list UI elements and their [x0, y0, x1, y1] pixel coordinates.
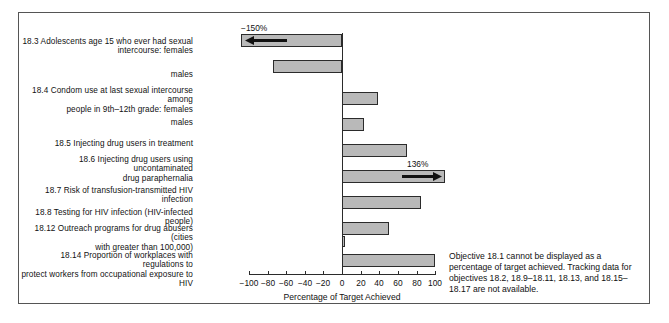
- x-tick-label: −80: [261, 278, 275, 288]
- x-tick: [379, 271, 380, 275]
- x-tick-label: 0: [340, 278, 345, 288]
- bar-18-14: [342, 254, 435, 267]
- category-label: 18.4 Condom use at last sexual intercour…: [19, 86, 193, 114]
- category-label: 18.12 Outreach programs for drug abusers…: [19, 224, 193, 252]
- category-label: males: [171, 118, 193, 127]
- bar-18-4-females: [342, 92, 378, 105]
- x-tick-label: −20: [316, 278, 330, 288]
- x-tick-label: −100: [240, 278, 259, 288]
- x-tick: [249, 271, 250, 275]
- x-tick: [342, 271, 343, 275]
- x-tick: [417, 271, 418, 275]
- value-flag-18-3-females: −150%: [241, 23, 267, 33]
- zero-line: [342, 33, 343, 274]
- x-tick-label: 40: [374, 278, 383, 288]
- x-tick: [361, 271, 362, 275]
- category-label: 18.6 Injecting drug users using uncontam…: [19, 155, 193, 183]
- bar-18-5: [342, 144, 407, 157]
- x-tick-label: 80: [412, 278, 421, 288]
- figure-note: Objective 18.1 cannot be displayed as a …: [449, 251, 635, 295]
- x-tick-label: 100: [428, 278, 442, 288]
- x-tick: [305, 271, 306, 275]
- category-label: 18.5 Injecting drug users in treatment: [55, 139, 193, 148]
- overflow-arrow-right-icon: [402, 172, 442, 181]
- category-label: males: [171, 70, 193, 79]
- bar-18-8: [342, 222, 389, 235]
- figure-panel: 18.3 Adolescents age 15 who ever had sex…: [18, 12, 650, 304]
- x-tick: [435, 271, 436, 275]
- bar-18-4-males: [342, 118, 364, 131]
- x-tick: [398, 271, 399, 275]
- x-tick-label: 20: [356, 278, 365, 288]
- bar-18-7: [342, 196, 421, 209]
- x-tick: [286, 271, 287, 275]
- x-axis-title: Percentage of Target Achieved: [251, 292, 433, 302]
- x-tick: [268, 271, 269, 275]
- x-tick-label: −60: [279, 278, 293, 288]
- category-label: 18.3 Adolescents age 15 who ever had sex…: [22, 37, 193, 56]
- plot-area: 18.3 Adolescents age 15 who ever had sex…: [19, 13, 651, 305]
- category-label: 18.14 Proportion of workplaces with regu…: [19, 251, 193, 289]
- x-tick-label: 60: [393, 278, 402, 288]
- value-flag-18-6: 136%: [407, 159, 428, 169]
- overflow-arrow-left-icon: [245, 36, 287, 45]
- x-tick-label: −40: [298, 278, 312, 288]
- x-tick: [323, 271, 324, 275]
- bar-18-3-males: [273, 60, 342, 73]
- category-label: 18.7 Risk of transfusion-transmitted HIV…: [19, 186, 193, 205]
